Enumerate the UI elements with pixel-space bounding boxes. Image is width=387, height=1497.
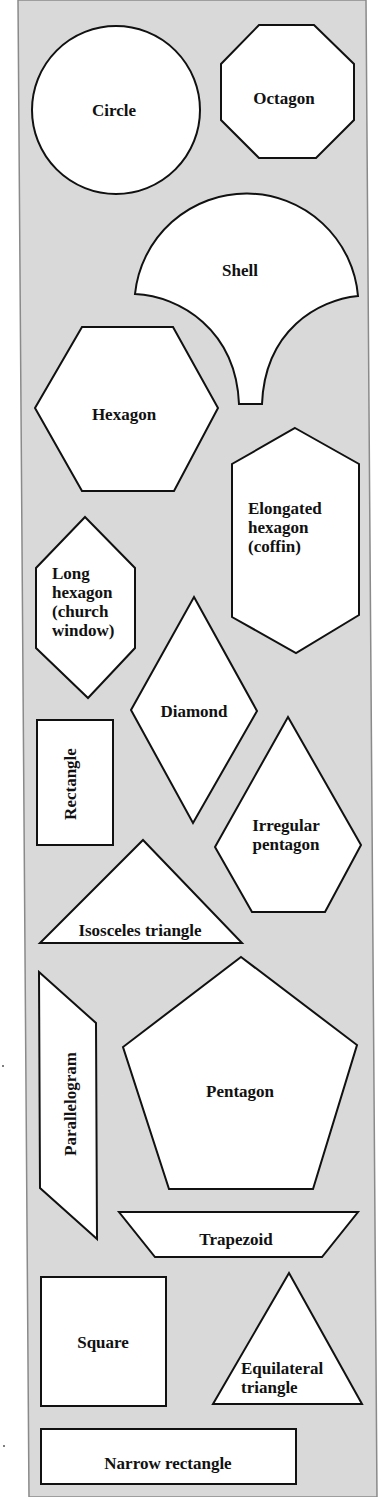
octagon-label: Octagon (253, 89, 315, 108)
label-line: Elongated (248, 499, 322, 518)
print-speck (2, 1065, 4, 1067)
label-line: triangle (241, 1378, 298, 1397)
label-line: window) (52, 621, 114, 640)
label-line: Isosceles triangle (78, 921, 202, 940)
label-line: Long (52, 564, 90, 583)
diamond-label: Diamond (160, 702, 228, 721)
rectangle-label: Rectangle (61, 748, 80, 820)
label-line: (church (52, 602, 109, 621)
circle-label: Circle (92, 101, 137, 120)
shape-square: Square (41, 1277, 166, 1406)
label-line: hexagon (248, 518, 309, 537)
parallelogram-label: Parallelogram (61, 1052, 80, 1156)
shape-octagon: Octagon (221, 25, 354, 158)
label-line: Trapezoid (199, 1230, 273, 1249)
label-line: (coffin) (248, 537, 301, 556)
shape-circle: Circle (32, 26, 200, 194)
shell-label: Shell (222, 261, 258, 280)
shape-rectangle: Rectangle (37, 720, 113, 845)
label-line: Parallelogram (61, 1052, 80, 1156)
label-line: Rectangle (61, 748, 80, 820)
label-line: Equilateral (241, 1359, 323, 1378)
shapes-figure: CircleOctagonShellHexagonElongatedhexago… (0, 0, 387, 1497)
label-line: pentagon (252, 835, 320, 854)
trapezoid-label: Trapezoid (199, 1230, 273, 1249)
print-speck (3, 1445, 5, 1447)
shape-narrow-rectangle: Narrow rectangle (41, 1429, 296, 1484)
hexagon-label: Hexagon (92, 405, 157, 424)
label-line: Irregular (252, 816, 320, 835)
shape-trapezoid: Trapezoid (119, 1212, 358, 1257)
label-line: hexagon (52, 583, 113, 602)
label-line: Circle (92, 101, 137, 120)
label-line: Octagon (253, 89, 315, 108)
isosceles-triangle-label: Isosceles triangle (78, 921, 202, 940)
label-line: Pentagon (206, 1082, 275, 1101)
narrow-rectangle-label: Narrow rectangle (104, 1454, 232, 1473)
label-line: Diamond (160, 702, 228, 721)
irregular-pentagon-label: Irregularpentagon (252, 816, 320, 854)
label-line: Hexagon (92, 405, 157, 424)
label-line: Square (77, 1333, 129, 1352)
label-line: Narrow rectangle (104, 1454, 232, 1473)
label-line: Shell (222, 261, 258, 280)
pentagon-label: Pentagon (206, 1082, 275, 1101)
shape-elongated-hexagon: Elongatedhexagon(coffin) (232, 428, 359, 653)
square-label: Square (77, 1333, 129, 1352)
